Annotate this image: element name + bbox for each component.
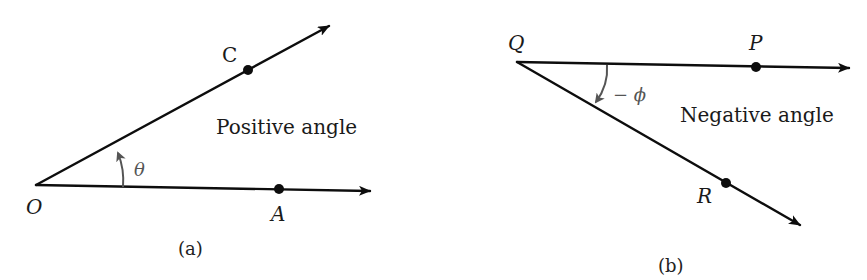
ray-qr [517, 62, 800, 225]
panel-b: Q P R − ϕ Negative angle (b) [508, 31, 849, 276]
angle-diagram: C O A θ Positive angle (a) Q P R − ϕ Neg… [0, 0, 867, 280]
point-c [243, 65, 253, 75]
caption-a: (a) [178, 238, 203, 259]
label-theta: θ [134, 159, 145, 180]
ray-oa [36, 185, 370, 191]
ray-qp [517, 62, 849, 68]
point-r [721, 178, 731, 188]
label-r: R [696, 184, 712, 208]
label-p: P [748, 31, 763, 55]
label-o: O [26, 195, 42, 219]
label-neg-phi: − ϕ [613, 84, 646, 105]
label-a: A [269, 202, 285, 226]
angle-arc-phi-icon [596, 65, 607, 102]
label-c: C [222, 43, 237, 67]
ray-oc [36, 26, 329, 185]
angle-arc-theta-icon [118, 153, 123, 187]
point-p [751, 62, 761, 72]
caption-b: (b) [658, 255, 684, 276]
label-q: Q [508, 31, 524, 55]
label-positive-angle: Positive angle [216, 115, 357, 139]
panel-a: C O A θ Positive angle (a) [26, 26, 370, 259]
label-negative-angle: Negative angle [680, 103, 834, 127]
point-a [274, 184, 284, 194]
